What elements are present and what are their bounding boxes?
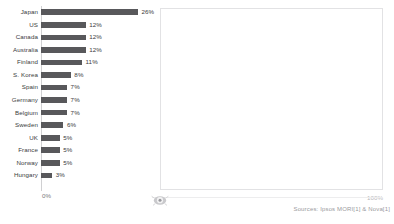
bar[interactable] [41, 60, 82, 66]
bar-row: Finland11% [0, 56, 156, 69]
bar-track: 12% [41, 19, 156, 32]
bar-value-label: 7% [71, 97, 80, 103]
bar-value-label: 7% [71, 110, 80, 116]
bar[interactable] [41, 173, 52, 179]
bar[interactable] [41, 122, 63, 128]
bar-row: Sweden6% [0, 119, 156, 132]
bar-row: Hungary3% [0, 169, 156, 182]
bar[interactable] [41, 135, 60, 141]
bar-row: Spain7% [0, 81, 156, 94]
bar-value-label: 12% [89, 47, 102, 53]
bar-category-label: France [0, 147, 41, 153]
bar-value-label: 5% [63, 135, 72, 141]
bar-row: US12% [0, 19, 156, 32]
bar-category-label: Sweden [0, 122, 41, 128]
bar-value-label: 6% [67, 122, 76, 128]
bar-category-label: Canada [0, 34, 41, 40]
bar-category-label: Australia [0, 47, 41, 53]
bar-track: 12% [41, 31, 156, 44]
bar-row: France5% [0, 144, 156, 157]
bar-value-label: 7% [71, 84, 80, 90]
bar-chart: Japan26%US12%Canada12%Australia12%Finlan… [0, 6, 156, 191]
bar[interactable] [41, 147, 60, 153]
bar-value-label: 5% [63, 160, 72, 166]
bar[interactable] [41, 85, 67, 91]
chart-bars-container: Japan26%US12%Canada12%Australia12%Finlan… [0, 6, 156, 182]
bar[interactable] [41, 9, 138, 15]
bar-track: 7% [41, 106, 156, 119]
bar-category-label: UK [0, 135, 41, 141]
bar-row: Belgium7% [0, 106, 156, 119]
bar-track: 5% [41, 131, 156, 144]
bar-row: Germany7% [0, 94, 156, 107]
bar-category-label: Belgium [0, 110, 41, 116]
content-panel[interactable] [160, 8, 383, 190]
source-attribution: Sources: Ipsos MORI[1] & Nova[1] [0, 206, 390, 212]
bar-category-label: Germany [0, 97, 41, 103]
bar-row: S. Korea8% [0, 69, 156, 82]
bar-track: 12% [41, 44, 156, 57]
bar-track: 6% [41, 119, 156, 132]
bar[interactable] [41, 160, 60, 166]
bar-row: Norway5% [0, 157, 156, 170]
bar-value-label: 8% [74, 72, 83, 78]
bar-value-label: 12% [89, 22, 102, 28]
bar-row: Australia12% [0, 44, 156, 57]
bar-category-label: Hungary [0, 172, 41, 178]
bar-category-label: S. Korea [0, 72, 41, 78]
bar-track: 7% [41, 94, 156, 107]
bar[interactable] [41, 22, 86, 28]
bar-value-label: 3% [56, 172, 65, 178]
bar-track: 5% [41, 157, 156, 170]
bar-category-label: Spain [0, 84, 41, 90]
bar-row: UK5% [0, 131, 156, 144]
bar-track: 3% [41, 169, 156, 182]
bar-category-label: Japan [0, 9, 41, 15]
bar-row: Canada12% [0, 31, 156, 44]
bar-row: Japan26% [0, 6, 156, 19]
bar[interactable] [41, 97, 67, 103]
bar-category-label: Norway [0, 160, 41, 166]
bar-category-label: US [0, 22, 41, 28]
bar-value-label: 5% [63, 147, 72, 153]
bar-track: 11% [41, 56, 156, 69]
bar-track: 26% [41, 6, 156, 19]
axis-tick-zero: 0% [42, 192, 51, 199]
bar-track: 8% [41, 69, 156, 82]
bar-track: 7% [41, 81, 156, 94]
bar-value-label: 11% [86, 59, 98, 65]
bar[interactable] [41, 35, 86, 41]
bar[interactable] [41, 110, 67, 116]
bar-value-label: 12% [89, 34, 102, 40]
footer-divider [152, 197, 383, 198]
bar-value-label: 26% [142, 9, 155, 15]
bar-track: 5% [41, 144, 156, 157]
bar[interactable] [41, 72, 71, 78]
bar[interactable] [41, 47, 86, 53]
bar-category-label: Finland [0, 59, 41, 65]
